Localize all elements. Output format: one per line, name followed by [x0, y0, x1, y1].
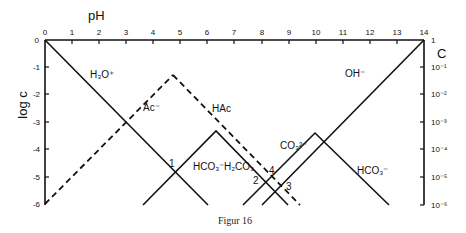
y-tick-label: -4	[33, 145, 41, 154]
y-tick-label: 10⁻⁶	[431, 201, 447, 210]
y-tick-label: -1	[33, 63, 41, 72]
y-tick-label: -5	[33, 173, 41, 182]
point-4: 4	[269, 165, 275, 176]
x-tick-label: 12	[366, 28, 375, 37]
label-ac: Ac⁻	[143, 102, 160, 113]
y-tick-label: 10⁻³	[431, 118, 447, 127]
y-tick-labels-right: 1 10⁻¹ 10⁻² 10⁻³ 10⁻⁴ 10⁻⁵ 10⁻⁶	[431, 36, 448, 210]
label-oh: OH⁻	[345, 68, 365, 79]
figure-caption: Figur 16	[218, 215, 252, 226]
x-tick-label: 1	[70, 28, 75, 37]
x-tick-label: 10	[312, 28, 321, 37]
label-h3o: H₃O⁺	[90, 69, 114, 80]
label-hco3-right: HCO₃⁻	[357, 165, 388, 176]
point-2: 2	[253, 175, 259, 186]
point-1: 1	[169, 158, 175, 169]
y-tick-label: 10⁻⁴	[431, 145, 448, 154]
x-tick-label: 7	[232, 28, 237, 37]
x-tick-label: 0	[43, 28, 48, 37]
y-tick-label: -3	[33, 118, 41, 127]
log-concentration-diagram: 0 1 2 3 4 5 6 7 8 9 10 11 12 13 14 pH lo…	[0, 0, 466, 233]
label-co3: CO₃²⁻	[280, 140, 307, 151]
x-tick-label: 2	[97, 28, 102, 37]
x-tick-label: 5	[178, 28, 183, 37]
x-tick-label: 11	[339, 28, 348, 37]
y-tick-label: 0	[35, 36, 40, 45]
y-tick-label: 10⁻⁵	[431, 173, 447, 182]
y-axis-left-title: log c	[15, 91, 30, 119]
x-tick-label: 13	[393, 28, 402, 37]
y-tick-label: 10⁻²	[431, 90, 447, 99]
x-tick-label: 3	[124, 28, 129, 37]
y-axis-right-title: C	[437, 46, 446, 61]
x-tick-label: 9	[287, 28, 292, 37]
y-tick-labels-left: 0 -1 -2 -3 -4 -5 -6	[33, 36, 41, 209]
y-tick-label: 1	[431, 36, 436, 45]
y-tick-label: -2	[33, 90, 41, 99]
species-lines	[45, 40, 424, 205]
x-tick-label: 4	[151, 28, 156, 37]
label-hac: HAc	[212, 103, 231, 114]
point-3: 3	[286, 181, 292, 192]
x-tick-label: 14	[420, 28, 429, 37]
ac-line	[45, 75, 173, 204]
x-tick-label: 6	[205, 28, 210, 37]
x-axis-title: pH	[88, 8, 105, 23]
x-tick-labels: 0 1 2 3 4 5 6 7 8 9 10 11 12 13 14	[43, 28, 429, 37]
y-tick-label: 10⁻¹	[431, 63, 447, 72]
x-tick-label: 8	[260, 28, 265, 37]
y-tick-label: -6	[33, 200, 41, 209]
axes	[45, 40, 424, 205]
label-h2co3: H₂CO₃	[224, 161, 254, 172]
label-hco3-left: HCO₃⁻	[193, 161, 224, 172]
